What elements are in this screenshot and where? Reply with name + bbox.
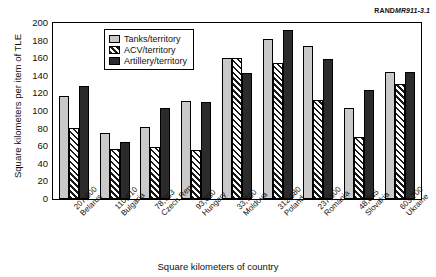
bar-artillery xyxy=(201,102,211,198)
bar-tanks xyxy=(263,39,273,198)
legend-item-tanks: Tanks/territory xyxy=(109,33,187,44)
bar-acv xyxy=(273,63,283,199)
bar-acv xyxy=(354,137,364,198)
legend-label: Artillery/territory xyxy=(124,56,187,66)
y-tick-label-20: 20 xyxy=(0,176,48,186)
bar-group-ukraine xyxy=(385,23,415,198)
y-tick-label-100: 100 xyxy=(0,106,48,116)
bar-group-poland xyxy=(263,23,293,198)
bar-tanks xyxy=(222,58,232,198)
legend-swatch-artillery-icon xyxy=(109,57,120,65)
bar-acv xyxy=(191,150,201,199)
legend-label: ACV/territory xyxy=(124,45,176,55)
y-tick-label-80: 80 xyxy=(0,124,48,134)
bar-acv xyxy=(395,84,405,199)
bar-artillery xyxy=(405,72,415,198)
y-tick-label-140: 140 xyxy=(0,71,48,81)
bar-acv xyxy=(110,149,120,199)
chart-legend: Tanks/territoryACV/territoryArtillery/te… xyxy=(104,29,194,70)
legend-item-artillery: Artillery/territory xyxy=(109,55,187,66)
figure-id-number: MR911-3.1 xyxy=(395,7,430,14)
bar-artillery xyxy=(242,73,252,198)
bar-group-belarus xyxy=(59,23,89,198)
bar-tanks xyxy=(344,108,354,198)
bar-group-moldova xyxy=(222,23,252,198)
bar-artillery xyxy=(160,108,170,198)
bar-artillery xyxy=(323,59,333,198)
bar-acv xyxy=(232,58,242,198)
legend-swatch-tanks-icon xyxy=(109,35,120,43)
bar-group-slovakia xyxy=(344,23,374,198)
y-tick-label-160: 160 xyxy=(0,54,48,64)
y-tick-label-120: 120 xyxy=(0,89,48,99)
y-tick-label-200: 200 xyxy=(0,19,48,29)
bar-acv xyxy=(69,128,79,199)
bar-artillery xyxy=(364,90,374,199)
bar-acv xyxy=(313,100,323,199)
y-tick-label-60: 60 xyxy=(0,141,48,151)
bar-group-romania xyxy=(303,23,333,198)
y-tick-label-0: 0 xyxy=(0,194,48,204)
bar-artillery xyxy=(283,30,293,199)
y-tick-label-40: 40 xyxy=(0,159,48,169)
y-tick-label-180: 180 xyxy=(0,36,48,46)
legend-swatch-acv-icon xyxy=(109,46,120,54)
figure-id-rand: RAND xyxy=(374,7,395,14)
bar-tanks xyxy=(303,46,313,198)
bar-tanks xyxy=(100,133,110,199)
figure-id: RANDMR911-3.1 xyxy=(374,7,430,14)
legend-label: Tanks/territory xyxy=(124,34,181,44)
bar-artillery xyxy=(79,86,89,199)
bar-tanks xyxy=(385,72,395,199)
bar-acv xyxy=(150,147,160,199)
legend-item-acv: ACV/territory xyxy=(109,44,187,55)
x-axis-title: Square kilometers of country xyxy=(0,261,436,272)
bar-tanks xyxy=(59,96,69,198)
bar-tanks xyxy=(140,127,150,199)
